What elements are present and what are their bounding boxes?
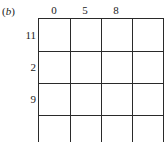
row-header: 11	[20, 30, 36, 41]
grid-line-vertical	[101, 18, 102, 142]
part-label: (b)	[2, 6, 15, 17]
grid-line-horizontal	[38, 18, 164, 19]
grid-line-horizontal	[38, 83, 164, 84]
grid-line-vertical	[132, 18, 133, 142]
column-header: 5	[75, 5, 95, 16]
row-header: 2	[20, 62, 36, 73]
row-header: 9	[20, 94, 36, 105]
grid-line-vertical	[38, 18, 39, 142]
grid-line-horizontal	[38, 115, 164, 116]
grid-line-vertical	[70, 18, 71, 142]
grid-line-vertical	[163, 18, 164, 142]
column-header: 8	[106, 5, 126, 16]
column-header: 0	[44, 5, 64, 16]
grid-line-horizontal	[38, 51, 164, 52]
